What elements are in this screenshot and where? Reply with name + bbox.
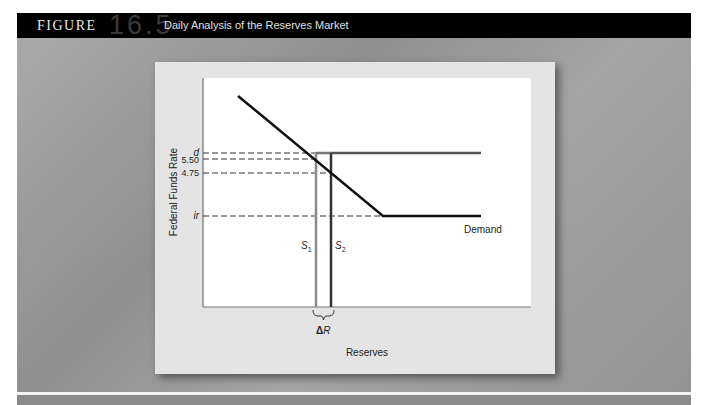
tick-550: 5.50 bbox=[181, 155, 199, 165]
plot-area bbox=[203, 78, 531, 307]
delta-r-brace bbox=[313, 310, 334, 320]
y-axis-label: Federal Funds Rate bbox=[168, 147, 179, 236]
x-axis-label: Reserves bbox=[346, 347, 388, 358]
chart: d 5.50 4.75 ir Federal Funds Rate S1 S2 … bbox=[0, 0, 702, 405]
delta-r-label: ΔR bbox=[316, 325, 330, 336]
tick-475: 4.75 bbox=[181, 168, 199, 178]
tick-ir: ir bbox=[193, 210, 199, 221]
demand-label: Demand bbox=[464, 224, 502, 235]
